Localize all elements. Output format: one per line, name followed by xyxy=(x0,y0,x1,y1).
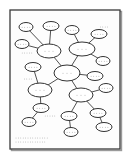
node-label-placeholder xyxy=(71,73,72,74)
annotation-placeholder xyxy=(24,79,25,80)
node-ellipse xyxy=(90,109,106,118)
footer-text-placeholder xyxy=(44,138,45,139)
node-label-placeholder xyxy=(70,30,71,31)
footer-text-placeholder xyxy=(40,142,41,143)
node-ellipse xyxy=(22,118,36,127)
node-T[interactable] xyxy=(96,123,112,132)
node-label-placeholder xyxy=(23,44,24,45)
node-label-placeholder xyxy=(105,127,106,128)
node-label-placeholder xyxy=(22,27,23,28)
node-label-placeholder xyxy=(40,90,41,91)
node-G[interactable] xyxy=(69,42,95,56)
node-label-placeholder xyxy=(100,34,101,35)
node-ellipse xyxy=(87,72,103,81)
annotation-placeholder xyxy=(45,116,46,117)
node-label-placeholder xyxy=(93,76,94,77)
node-label-placeholder xyxy=(107,88,108,89)
node-label-placeholder xyxy=(54,26,55,27)
node-ellipse xyxy=(91,30,107,39)
footer-text-placeholder xyxy=(25,142,26,143)
node-O[interactable] xyxy=(33,104,49,113)
annotation-placeholder xyxy=(54,116,55,117)
annotation-placeholder xyxy=(27,53,28,54)
node-label-placeholder xyxy=(45,51,46,52)
node-P[interactable] xyxy=(61,112,77,121)
footer-text-placeholder xyxy=(16,142,17,143)
node-label-placeholder xyxy=(78,49,79,50)
footer-text-placeholder xyxy=(42,138,43,139)
footer-text-placeholder xyxy=(23,138,24,139)
node-label-placeholder xyxy=(67,132,68,133)
node-label-placeholder xyxy=(67,73,68,74)
footer-text-placeholder xyxy=(20,138,21,139)
node-label-placeholder xyxy=(34,67,35,68)
node-label-placeholder xyxy=(68,30,69,31)
node-F[interactable] xyxy=(37,44,61,58)
footer-text-placeholder xyxy=(30,138,31,139)
node-ellipse xyxy=(43,22,59,31)
node-label-placeholder xyxy=(29,67,30,68)
node-A[interactable] xyxy=(19,23,33,32)
node-label-placeholder xyxy=(18,44,19,45)
node-label-placeholder xyxy=(73,30,74,31)
footer-text-placeholder xyxy=(20,142,21,143)
node-N[interactable] xyxy=(69,88,93,102)
node-ellipse xyxy=(65,26,79,35)
node-S[interactable] xyxy=(64,128,78,137)
node-label-placeholder xyxy=(104,61,105,62)
annotation-placeholder xyxy=(102,27,103,28)
node-label-placeholder xyxy=(63,73,64,74)
footer-text-placeholder xyxy=(37,138,38,139)
node-label-placeholder xyxy=(101,61,102,62)
node-label-placeholder xyxy=(49,51,50,52)
footer-text-placeholder xyxy=(37,142,38,143)
node-label-placeholder xyxy=(101,113,102,114)
node-label-placeholder xyxy=(98,76,99,77)
node-Q[interactable] xyxy=(90,109,106,118)
node-I[interactable] xyxy=(25,63,41,72)
footer-text-placeholder xyxy=(32,142,33,143)
node-label-placeholder xyxy=(72,116,73,117)
node-H[interactable] xyxy=(96,57,110,66)
annotation-placeholder xyxy=(50,116,51,117)
footer-text-placeholder xyxy=(18,138,19,139)
annotation-placeholder xyxy=(52,116,53,117)
node-label-placeholder xyxy=(30,122,31,123)
node-label-placeholder xyxy=(53,51,54,52)
annotation-placeholder xyxy=(29,53,30,54)
node-label-placeholder xyxy=(106,61,107,62)
node-J[interactable] xyxy=(54,65,80,81)
node-label-placeholder xyxy=(24,27,25,28)
footer-text-placeholder xyxy=(47,138,48,139)
node-ellipse xyxy=(99,84,113,93)
node-M[interactable] xyxy=(99,84,113,93)
node-D[interactable] xyxy=(91,30,107,39)
node-R[interactable] xyxy=(22,118,36,127)
node-label-placeholder xyxy=(91,76,92,77)
node-ellipse xyxy=(96,57,110,66)
node-ellipse xyxy=(15,40,29,49)
node-label-placeholder xyxy=(36,67,37,68)
node-B[interactable] xyxy=(43,22,59,31)
node-C[interactable] xyxy=(65,26,79,35)
node-label-placeholder xyxy=(70,116,71,117)
node-L[interactable] xyxy=(28,83,52,97)
node-label-placeholder xyxy=(42,108,43,109)
node-label-placeholder xyxy=(32,122,33,123)
annotation-placeholder xyxy=(26,79,27,80)
node-label-placeholder xyxy=(47,26,48,27)
node-label-placeholder xyxy=(99,113,100,114)
node-label-placeholder xyxy=(25,122,26,123)
node-label-placeholder xyxy=(102,88,103,89)
footer-text-placeholder xyxy=(16,138,17,139)
footer-text-placeholder xyxy=(18,142,19,143)
node-K[interactable] xyxy=(87,72,103,81)
node-label-placeholder xyxy=(100,127,101,128)
node-label-placeholder xyxy=(37,108,38,109)
node-label-placeholder xyxy=(69,132,70,133)
node-E[interactable] xyxy=(15,40,29,49)
annotation-placeholder xyxy=(24,53,25,54)
annotation-placeholder xyxy=(107,27,108,28)
footer-text-placeholder xyxy=(42,142,43,143)
node-label-placeholder xyxy=(72,132,73,133)
